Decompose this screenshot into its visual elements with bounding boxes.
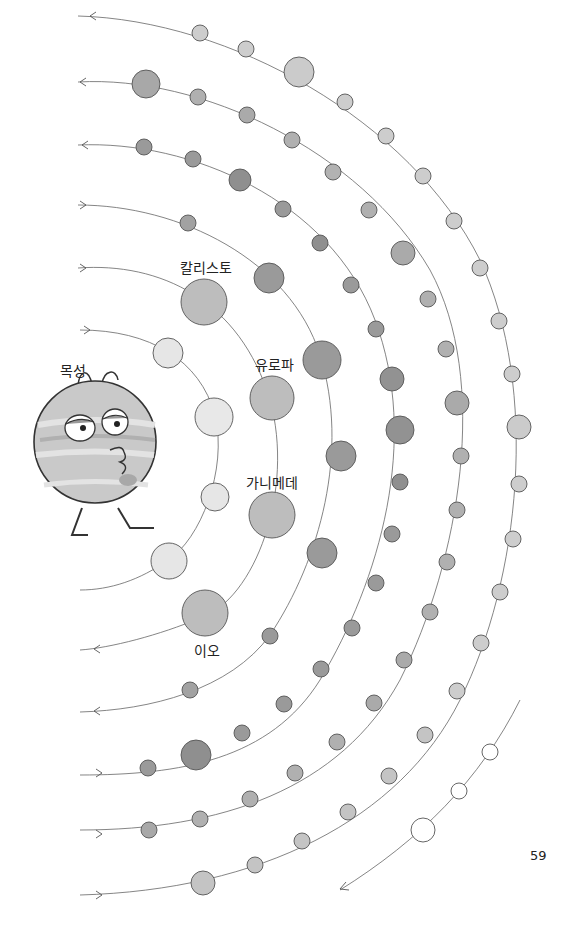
io-label: 이오 bbox=[194, 640, 220, 660]
europa-label: 유로파 bbox=[255, 354, 294, 374]
jupiter-moons-illustration bbox=[0, 0, 578, 926]
moons-orbit-1 bbox=[151, 338, 233, 579]
callisto-label: 칼리스토 bbox=[180, 257, 232, 277]
europa bbox=[250, 376, 294, 420]
ganymede-label: 가니메데 bbox=[246, 472, 298, 492]
ganymede bbox=[249, 492, 295, 538]
leg-right bbox=[118, 508, 154, 528]
callisto bbox=[181, 279, 227, 325]
moons-orbit-4 bbox=[136, 139, 414, 776]
moons-orbit-5 bbox=[132, 70, 469, 838]
moons-orbit-7 bbox=[411, 744, 498, 842]
jupiter-character bbox=[34, 372, 156, 535]
great-red-spot bbox=[119, 474, 137, 486]
leg-left bbox=[72, 508, 88, 535]
jupiter-label: 목성 bbox=[60, 360, 86, 380]
page-number: 59 bbox=[530, 848, 547, 863]
io bbox=[182, 590, 228, 636]
